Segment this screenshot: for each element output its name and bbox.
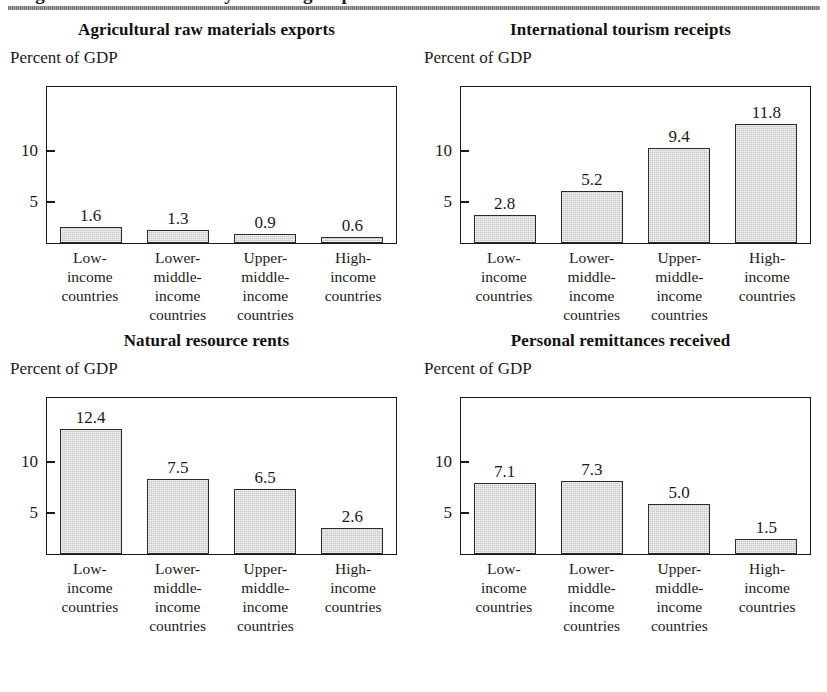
plot-area: 10 5 2.8 5.2 9.4 11.8 <box>460 86 811 244</box>
x-axis-labels: Low-incomecountries Lower-middle-incomec… <box>46 559 397 635</box>
bar-value-label: 2.6 <box>342 507 363 527</box>
x-label-upper-middle-income: Upper-middle-incomecountries <box>636 559 724 635</box>
chart-panel-international-tourism-receipts: International tourism receipts Percent o… <box>414 12 827 352</box>
bar[interactable]: 2.8 <box>474 215 536 243</box>
bar-slot: 5.2 <box>548 87 635 243</box>
bar-slot: 9.4 <box>636 87 723 243</box>
y-tick-10: 10 <box>21 141 47 161</box>
bar-value-label: 6.5 <box>255 468 276 488</box>
bar-value-label: 0.6 <box>342 216 363 236</box>
x-axis-labels: Low-incomecountries Lower-middle-incomec… <box>460 248 811 324</box>
bar[interactable]: 7.3 <box>561 481 623 554</box>
x-label-lower-middle-income: Lower-middle-incomecountries <box>548 248 636 324</box>
header-rule <box>8 6 820 10</box>
bar-slot: 0.9 <box>222 87 309 243</box>
chart-title: Personal remittances received <box>414 331 827 351</box>
bar[interactable]: 1.6 <box>60 227 122 243</box>
plot-area: 10 5 1.6 1.3 0.9 0.6 <box>46 86 397 244</box>
x-label-low-income: Low-incomecountries <box>46 559 134 635</box>
x-axis-labels: Low-incomecountries Lower-middle-incomec… <box>460 559 811 635</box>
bar-slot: 7.3 <box>548 398 635 554</box>
bar[interactable]: 5.2 <box>561 191 623 243</box>
bar-slot: 1.5 <box>723 398 810 554</box>
y-tick-5: 5 <box>444 192 462 212</box>
x-label-low-income: Low-incomecountries <box>460 559 548 635</box>
bar[interactable]: 11.8 <box>735 124 797 243</box>
bar-value-label: 5.2 <box>581 170 602 190</box>
chart-subtitle: Percent of GDP <box>424 359 532 379</box>
bar[interactable]: 12.4 <box>60 429 122 554</box>
y-tick-10: 10 <box>21 452 47 472</box>
bar[interactable]: 7.5 <box>147 479 209 555</box>
bar-value-label: 5.0 <box>669 483 690 503</box>
plot-area: 10 5 12.4 7.5 6.5 2.6 <box>46 397 397 555</box>
bar-value-label: 1.6 <box>80 206 101 226</box>
y-tick-10: 10 <box>435 141 461 161</box>
chart-panel-personal-remittances-received: Personal remittances received Percent of… <box>414 317 827 657</box>
bar[interactable]: 2.6 <box>321 528 383 554</box>
x-label-lower-middle-income: Lower-middle-incomecountries <box>134 559 222 635</box>
x-label-upper-middle-income: Upper-middle-incomecountries <box>636 248 724 324</box>
bar-value-label: 2.8 <box>494 194 515 214</box>
bar-series: 1.6 1.3 0.9 0.6 <box>47 87 396 243</box>
bar-value-label: 1.5 <box>756 518 777 538</box>
bar-value-label: 12.4 <box>76 408 106 428</box>
bar-value-label: 11.8 <box>752 103 781 123</box>
x-label-upper-middle-income: Upper-middle-incomecountries <box>222 559 310 635</box>
chart-grid: Agricultural raw materials exports Perce… <box>0 12 827 692</box>
x-label-high-income: High-incomecountries <box>723 559 811 635</box>
bar[interactable]: 6.5 <box>234 489 296 554</box>
y-tick-5: 5 <box>444 503 462 523</box>
plot-area: 10 5 7.1 7.3 5.0 1.5 <box>460 397 811 555</box>
bar-slot: 6.5 <box>222 398 309 554</box>
chart-title: Agricultural raw materials exports <box>0 20 413 40</box>
chart-panel-natural-resource-rents: Natural resource rents Percent of GDP 10… <box>0 317 413 657</box>
x-label-lower-middle-income: Lower-middle-incomecountries <box>548 559 636 635</box>
x-axis-labels: Low-incomecountries Lower-middle-incomec… <box>46 248 397 324</box>
bar-slot: 12.4 <box>47 398 134 554</box>
bar-slot: 1.3 <box>134 87 221 243</box>
bar[interactable]: 9.4 <box>648 148 710 243</box>
x-label-high-income: High-incomecountries <box>723 248 811 324</box>
x-label-lower-middle-income: Lower-middle-incomecountries <box>134 248 222 324</box>
bar[interactable]: 0.6 <box>321 237 383 243</box>
x-label-high-income: High-incomecountries <box>309 559 397 635</box>
bar-slot: 1.6 <box>47 87 134 243</box>
chart-panel-agricultural-raw-materials-exports: Agricultural raw materials exports Perce… <box>0 12 413 352</box>
chart-subtitle: Percent of GDP <box>424 48 532 68</box>
chart-subtitle: Percent of GDP <box>10 48 118 68</box>
bar-value-label: 9.4 <box>669 127 690 147</box>
bar-slot: 11.8 <box>723 87 810 243</box>
bar-value-label: 1.3 <box>167 209 188 229</box>
bar-slot: 7.1 <box>461 398 548 554</box>
bar-value-label: 7.3 <box>581 460 602 480</box>
bar-series: 12.4 7.5 6.5 2.6 <box>47 398 396 554</box>
chart-title: International tourism receipts <box>414 20 827 40</box>
bar-value-label: 7.1 <box>494 462 515 482</box>
bar-slot: 2.6 <box>309 398 396 554</box>
bar-series: 7.1 7.3 5.0 1.5 <box>461 398 810 554</box>
chart-title: Natural resource rents <box>0 331 413 351</box>
x-label-low-income: Low-incomecountries <box>46 248 134 324</box>
y-tick-10: 10 <box>435 452 461 472</box>
bar[interactable]: 7.1 <box>474 483 536 554</box>
y-tick-5: 5 <box>30 503 48 523</box>
x-label-upper-middle-income: Upper-middle-incomecountries <box>222 248 310 324</box>
figure-heading: Figure: Resource flows by income group <box>18 0 352 5</box>
chart-subtitle: Percent of GDP <box>10 359 118 379</box>
bar-slot: 5.0 <box>636 398 723 554</box>
bar-slot: 7.5 <box>134 398 221 554</box>
bar-value-label: 7.5 <box>167 458 188 478</box>
y-tick-5: 5 <box>30 192 48 212</box>
bar-slot: 0.6 <box>309 87 396 243</box>
bar[interactable]: 0.9 <box>234 234 296 243</box>
x-label-high-income: High-incomecountries <box>309 248 397 324</box>
bar[interactable]: 1.3 <box>147 230 209 243</box>
x-label-low-income: Low-incomecountries <box>460 248 548 324</box>
bar-slot: 2.8 <box>461 87 548 243</box>
bar[interactable]: 5.0 <box>648 504 710 554</box>
bar-series: 2.8 5.2 9.4 11.8 <box>461 87 810 243</box>
bar[interactable]: 1.5 <box>735 539 797 554</box>
bar-value-label: 0.9 <box>255 213 276 233</box>
